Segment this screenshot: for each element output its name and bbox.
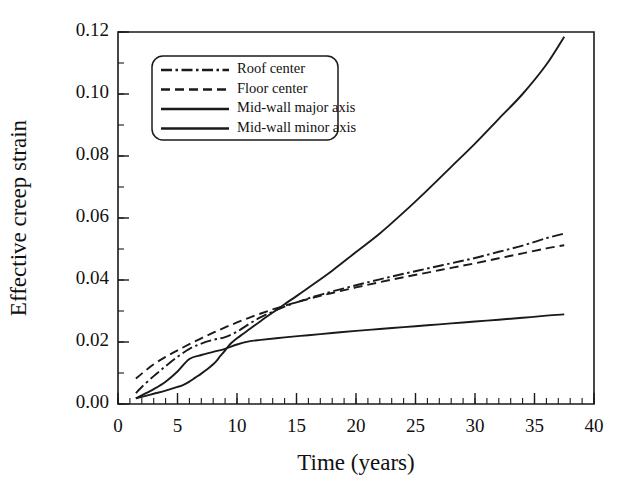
line-chart: 0510152025303540 0.000.020.040.060.080.1… (0, 0, 632, 493)
y-axis-major-ticks (118, 32, 129, 404)
series-line-floor-center (136, 245, 564, 378)
legend-label-floor-center: Floor center (237, 80, 308, 96)
series-line-mid-wall-major-axis (136, 314, 564, 398)
x-axis-title: Time (years) (297, 450, 414, 475)
x-tick-label: 35 (525, 415, 544, 436)
y-axis-title: Effective creep strain (6, 119, 31, 316)
y-tick-label: 0.02 (76, 329, 109, 350)
x-tick-label: 5 (173, 415, 183, 436)
x-tick-label: 30 (466, 415, 485, 436)
legend-label-mid-wall-minor-axis: Mid-wall minor axis (237, 119, 357, 135)
x-tick-label: 20 (347, 415, 366, 436)
legend-label-roof-center: Roof center (237, 60, 305, 76)
x-tick-label: 10 (228, 415, 247, 436)
chart-legend: Roof centerFloor centerMid-wall major ax… (152, 56, 357, 140)
y-tick-label: 0.12 (76, 19, 109, 40)
x-tick-label: 40 (585, 415, 604, 436)
y-tick-label: 0.08 (76, 143, 109, 164)
y-tick-label: 0.00 (76, 391, 109, 412)
y-tick-label: 0.10 (76, 81, 109, 102)
x-axis-tick-labels: 0510152025303540 (113, 415, 603, 436)
y-tick-label: 0.06 (76, 205, 109, 226)
x-tick-label: 15 (287, 415, 306, 436)
y-tick-label: 0.04 (76, 267, 110, 288)
x-tick-label: 25 (406, 415, 425, 436)
y-axis-tick-labels: 0.000.020.040.060.080.100.12 (76, 19, 110, 412)
legend-label-mid-wall-major-axis: Mid-wall major axis (237, 99, 356, 115)
chart-figure: 0510152025303540 0.000.020.040.060.080.1… (0, 0, 632, 493)
x-tick-label: 0 (113, 415, 123, 436)
